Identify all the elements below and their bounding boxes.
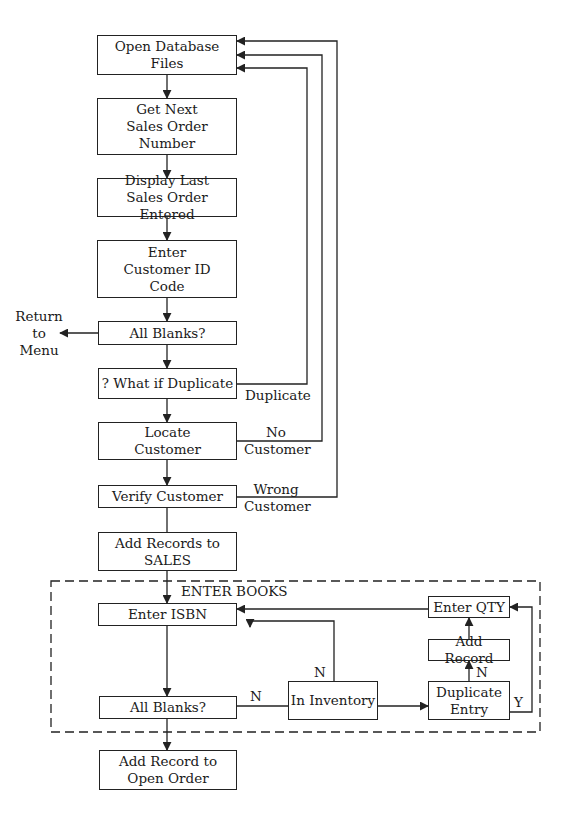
label-duplicate: Duplicate: [245, 387, 311, 404]
label-y-duplicate-entry: Y: [514, 694, 523, 711]
label-return-to-menu: Return to Menu: [14, 308, 64, 359]
node-verify-customer: Verify Customer: [98, 485, 237, 508]
loop-no-customer: [236, 55, 322, 441]
node-duplicate-entry: Duplicate Entry: [428, 681, 510, 720]
node-enter-customer-id: Enter Customer ID Code: [97, 240, 237, 298]
node-enter-isbn: Enter ISBN: [98, 603, 237, 626]
node-add-record: Add Record: [428, 639, 510, 661]
node-all-blanks-2: All Blanks?: [99, 696, 237, 719]
label-wrong-customer: Wrong Customer: [244, 481, 308, 515]
label-n-all-blanks: N: [250, 688, 262, 705]
node-open-database: Open Database Files: [97, 35, 237, 75]
node-display-last: Display Last Sales Order Entered: [97, 178, 237, 217]
node-enter-qty: Enter QTY: [428, 596, 510, 618]
label-no-customer: No Customer: [244, 424, 308, 458]
node-locate-customer: Locate Customer: [98, 422, 237, 460]
label-n-in-inventory: N: [314, 664, 326, 681]
node-add-record-open-order: Add Record to Open Order: [99, 750, 237, 790]
node-all-blanks-1: All Blanks?: [98, 321, 237, 345]
loop-duplicate: [236, 68, 307, 384]
node-in-inventory: In Inventory: [288, 681, 378, 720]
label-n-duplicate-entry: N: [476, 664, 488, 681]
node-get-next-order: Get Next Sales Order Number: [97, 98, 237, 155]
node-what-if-duplicate: ? What if Duplicate: [98, 368, 237, 399]
node-add-records-sales: Add Records to SALES: [98, 532, 237, 571]
label-enter-books: ENTER BOOKS: [181, 583, 288, 600]
